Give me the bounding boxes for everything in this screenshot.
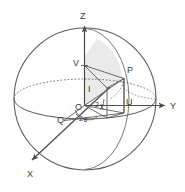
svg-text:2: 2	[79, 115, 83, 122]
axis-label-z: Z	[80, 11, 86, 21]
point-label-o: O	[75, 102, 82, 112]
svg-text:2: 2	[95, 101, 99, 108]
point-label-v: V	[73, 58, 79, 68]
poincare-sphere-svg: Z Y X O P V U Q I 2 χ 2 θ	[0, 0, 185, 192]
figure-canvas: Z Y X O P V U Q I 2 χ 2 θ	[0, 0, 185, 192]
point-label-u: U	[126, 97, 133, 107]
svg-text:θ: θ	[84, 116, 88, 123]
angle-label-2theta: 2 θ	[79, 115, 88, 123]
segment-label-i: I	[88, 84, 91, 94]
point-label-q: Q	[57, 115, 64, 125]
x-axis	[32, 87, 110, 160]
angle-label-2chi: 2 χ	[95, 101, 104, 110]
axis-label-y: Y	[170, 101, 176, 111]
svg-text:χ: χ	[100, 102, 104, 110]
point-label-p: P	[127, 65, 133, 75]
axis-label-x: X	[27, 169, 33, 179]
